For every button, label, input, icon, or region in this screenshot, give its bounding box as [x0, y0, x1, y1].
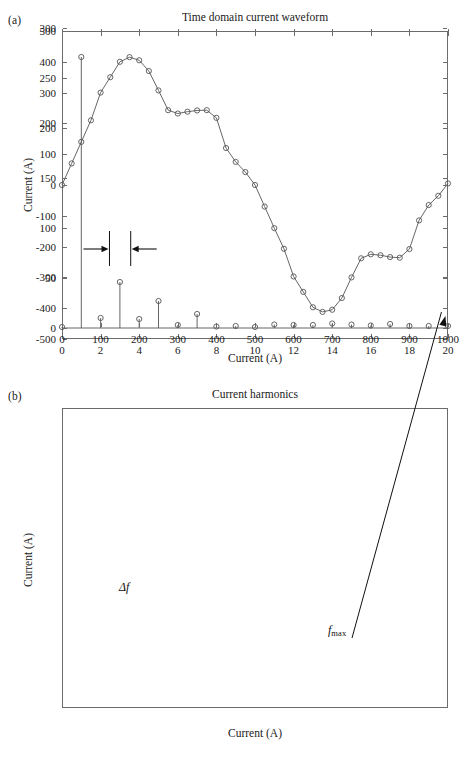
- chart-a-xaxis-title: Current (A): [228, 352, 282, 364]
- xtick-label: 100: [92, 333, 109, 345]
- ytick-mark-right: [443, 278, 447, 279]
- ytick-mark-right: [443, 228, 447, 229]
- xtick-label: 8: [214, 344, 220, 356]
- ytick-mark-right: [443, 93, 447, 94]
- chart-b-yaxis-title: Current (A): [22, 533, 34, 587]
- xtick-label: 0: [59, 344, 65, 356]
- xtick-mark: [409, 323, 410, 327]
- xtick-label: 2: [98, 344, 104, 356]
- ytick-label: 100: [12, 148, 56, 160]
- delta-f-annotation: Δf: [119, 580, 129, 595]
- ytick-mark-right: [443, 154, 447, 155]
- ytick-mark: [63, 308, 67, 309]
- f-max-subscript: max: [331, 628, 346, 638]
- ytick-label: 400: [12, 56, 56, 68]
- xtick-mark: [294, 323, 295, 327]
- xtick-label: 1000: [437, 333, 459, 345]
- ytick-mark-right: [443, 78, 447, 79]
- xtick-label: 300: [170, 333, 187, 345]
- xtick-label: 18: [404, 344, 415, 356]
- xtick-mark: [62, 323, 63, 327]
- xtick-label: 600: [285, 333, 302, 345]
- ytick-label: 300: [12, 87, 56, 99]
- ytick-mark-right: [443, 328, 447, 329]
- xtick-mark-top: [216, 29, 217, 33]
- ytick-mark-right: [443, 216, 447, 217]
- ytick-mark-right: [443, 308, 447, 309]
- xtick-mark-top: [371, 29, 372, 33]
- chart-b-xaxis-title: Current (A): [228, 727, 282, 739]
- ytick-label: -400: [12, 302, 56, 314]
- panel-b-harmonics: (b) Current harmonics 010020030040050060…: [0, 380, 476, 761]
- xtick-label: 14: [327, 344, 338, 356]
- xtick-label: 0: [59, 333, 65, 345]
- ytick-mark: [63, 93, 67, 94]
- ytick-mark: [63, 247, 67, 248]
- ytick-mark: [63, 62, 67, 63]
- panel-a-time-domain: (a) Time domain current waveform 0246810…: [0, 0, 476, 380]
- ytick-label: 200: [12, 122, 56, 134]
- xtick-label: 500: [247, 333, 264, 345]
- ytick-label: 50: [12, 272, 56, 284]
- ytick-mark-right: [443, 31, 447, 32]
- xtick-mark: [101, 323, 102, 327]
- xtick-mark: [139, 323, 140, 327]
- xtick-label: 12: [288, 344, 299, 356]
- xtick-mark-top: [448, 29, 449, 33]
- xtick-mark: [371, 323, 372, 327]
- ytick-mark: [63, 216, 67, 217]
- ytick-mark: [63, 228, 67, 229]
- xtick-mark-top: [409, 29, 410, 33]
- chart-a-yaxis-title: Current (A): [22, 158, 34, 212]
- xtick-label: 20: [443, 344, 454, 356]
- xtick-mark-top: [101, 29, 102, 33]
- f-max-annotation: fmax: [328, 623, 346, 638]
- chart-a-waveform-line: [62, 57, 448, 312]
- ytick-mark-right: [443, 62, 447, 63]
- chart-a-data-layer: [0, 0, 476, 380]
- xtick-mark-top: [332, 29, 333, 33]
- ytick-mark: [63, 78, 67, 79]
- chart-b-data-layer: [0, 380, 476, 761]
- ytick-mark: [63, 178, 67, 179]
- xtick-mark: [448, 323, 449, 327]
- xtick-mark-top: [255, 29, 256, 33]
- ytick-label: 100: [12, 222, 56, 234]
- ytick-mark-right: [443, 28, 447, 29]
- ytick-mark: [63, 185, 67, 186]
- ytick-mark: [63, 278, 67, 279]
- xtick-label: 700: [324, 333, 341, 345]
- xtick-label: 4: [136, 344, 142, 356]
- xtick-mark-top: [178, 29, 179, 33]
- ytick-label: 250: [12, 72, 56, 84]
- ytick-mark: [63, 28, 67, 29]
- xtick-mark: [178, 323, 179, 327]
- xtick-mark-top: [294, 29, 295, 33]
- xtick-label: 200: [131, 333, 148, 345]
- ytick-mark-right: [443, 123, 447, 124]
- ytick-label: -100: [12, 210, 56, 222]
- ytick-label: 150: [12, 172, 56, 184]
- ytick-label: -200: [12, 241, 56, 253]
- xtick-label: 800: [363, 333, 380, 345]
- ytick-mark: [63, 328, 67, 329]
- ytick-mark-right: [443, 247, 447, 248]
- ytick-mark-right: [443, 178, 447, 179]
- xtick-label: 6: [175, 344, 181, 356]
- ytick-label: 0: [12, 322, 56, 334]
- xtick-mark: [332, 323, 333, 327]
- ytick-label: -500: [12, 333, 56, 345]
- xtick-mark-top: [62, 29, 63, 33]
- ytick-mark-right: [443, 185, 447, 186]
- xtick-label: 16: [365, 344, 376, 356]
- ytick-label: 300: [12, 22, 56, 34]
- xtick-label: 400: [208, 333, 225, 345]
- xtick-mark: [255, 323, 256, 327]
- xtick-mark-top: [139, 29, 140, 33]
- xtick-label: 900: [401, 333, 418, 345]
- figure-container: (a) Time domain current waveform 0246810…: [0, 0, 476, 761]
- ytick-mark: [63, 154, 67, 155]
- ytick-mark: [63, 123, 67, 124]
- ytick-mark: [63, 31, 67, 32]
- xtick-mark: [216, 323, 217, 327]
